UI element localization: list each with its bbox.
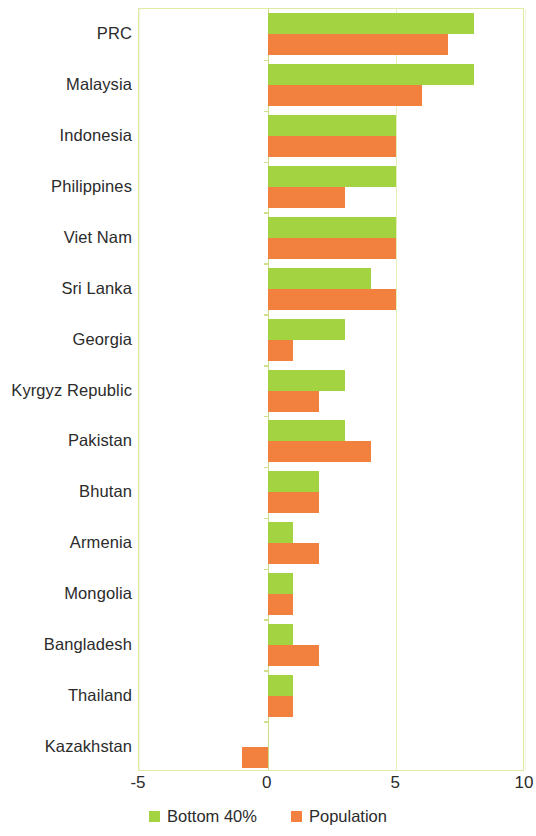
bar-bottom40 bbox=[268, 573, 294, 594]
category-label: Mongolia bbox=[0, 585, 132, 602]
axis-tickmark bbox=[264, 721, 269, 723]
bar-population bbox=[268, 645, 319, 666]
bar-population bbox=[268, 594, 294, 615]
axis-tickmark bbox=[264, 162, 269, 164]
bar-bottom40 bbox=[268, 13, 474, 34]
bar-population bbox=[242, 747, 268, 768]
legend-swatch-icon bbox=[149, 811, 160, 822]
category-label: Sri Lanka bbox=[0, 280, 132, 297]
axis-tickmark bbox=[264, 619, 269, 621]
category-label: Malaysia bbox=[0, 76, 132, 93]
bar-population bbox=[268, 238, 397, 259]
bar-population bbox=[268, 340, 294, 361]
category-label: Georgia bbox=[0, 330, 132, 347]
bar-bottom40 bbox=[268, 624, 294, 645]
legend-label: Bottom 40% bbox=[167, 808, 257, 825]
axis-tickmark bbox=[264, 60, 269, 62]
bar-population bbox=[268, 34, 448, 55]
category-label: Kazakhstan bbox=[0, 737, 132, 754]
plot-area bbox=[138, 8, 524, 771]
axis-tickmark bbox=[264, 212, 269, 214]
axis-tickmark bbox=[264, 365, 269, 367]
bar-population bbox=[268, 85, 422, 106]
legend-swatch-icon bbox=[291, 811, 302, 822]
axis-tickmark bbox=[264, 518, 269, 520]
bar-bottom40 bbox=[268, 319, 345, 340]
bar-bottom40 bbox=[268, 420, 345, 441]
category-label: Pakistan bbox=[0, 432, 132, 449]
bar-bottom40 bbox=[268, 166, 397, 187]
bar-bottom40 bbox=[268, 370, 345, 391]
category-axis: PRCMalaysiaIndonesiaPhilippinesViet NamS… bbox=[0, 8, 132, 771]
value-tick-label: 0 bbox=[262, 774, 271, 791]
bar-bottom40 bbox=[268, 675, 294, 696]
category-label: Viet Nam bbox=[0, 229, 132, 246]
axis-tickmark bbox=[264, 111, 269, 113]
bar-bottom40 bbox=[268, 64, 474, 85]
bar-bottom40 bbox=[268, 115, 397, 136]
axis-tickmark bbox=[264, 314, 269, 316]
chart-legend: Bottom 40%Population bbox=[0, 808, 536, 825]
bar-population bbox=[268, 391, 319, 412]
category-label: Bhutan bbox=[0, 483, 132, 500]
axis-tickmark bbox=[264, 416, 269, 418]
category-label: Bangladesh bbox=[0, 636, 132, 653]
category-label: PRC bbox=[0, 25, 132, 42]
bar-population bbox=[268, 136, 397, 157]
axis-tickmark bbox=[264, 569, 269, 571]
axis-tickmark bbox=[264, 467, 269, 469]
bar-bottom40 bbox=[268, 522, 294, 543]
legend-entry: Population bbox=[291, 808, 387, 825]
axis-tickmark bbox=[264, 263, 269, 265]
category-label: Kyrgyz Republic bbox=[0, 381, 132, 398]
bar-bottom40 bbox=[268, 268, 371, 289]
category-label: Armenia bbox=[0, 534, 132, 551]
axis-tickmark bbox=[264, 670, 269, 672]
bar-population bbox=[268, 543, 319, 564]
legend-entry: Bottom 40% bbox=[149, 808, 257, 825]
horizontal-bar-chart: PRCMalaysiaIndonesiaPhilippinesViet NamS… bbox=[0, 0, 536, 836]
bar-population bbox=[268, 187, 345, 208]
value-tick-label: -5 bbox=[130, 774, 145, 791]
gridline-10 bbox=[525, 9, 526, 770]
value-tick-label: 5 bbox=[391, 774, 400, 791]
value-axis: -50510 bbox=[138, 774, 524, 802]
bar-population bbox=[268, 289, 397, 310]
category-label: Philippines bbox=[0, 178, 132, 195]
bar-population bbox=[268, 696, 294, 717]
bar-population bbox=[268, 441, 371, 462]
gridline-neg5 bbox=[139, 9, 140, 770]
category-label: Indonesia bbox=[0, 127, 132, 144]
bar-bottom40 bbox=[268, 471, 319, 492]
gridline-5 bbox=[396, 9, 397, 770]
category-label: Thailand bbox=[0, 686, 132, 703]
bar-bottom40 bbox=[268, 217, 397, 238]
value-tick-label: 10 bbox=[515, 774, 534, 791]
legend-label: Population bbox=[309, 808, 387, 825]
bar-population bbox=[268, 492, 319, 513]
